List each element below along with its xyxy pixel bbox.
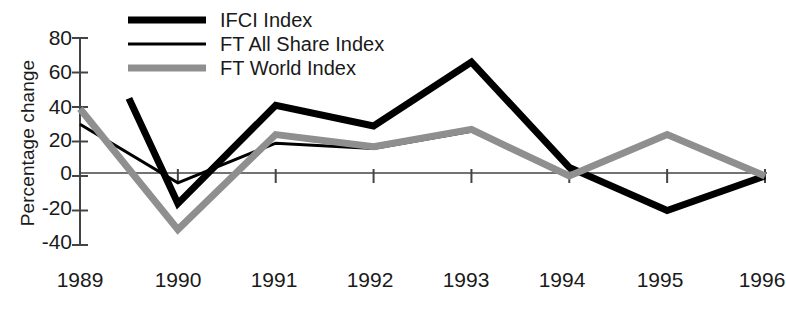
legend-label: IFCI Index [220,10,312,30]
line-chart: Percentage change 80 60 40 20 0 -20 -40 … [0,0,786,312]
legend: IFCI Index FT All Share Index FT World I… [128,8,384,80]
data-series-layer [80,62,765,229]
plot-area [0,0,786,312]
legend-label: FT World Index [220,58,356,78]
legend-label: FT All Share Index [220,34,384,54]
legend-item-ft-all-share: FT All Share Index [128,32,384,56]
legend-item-ifci: IFCI Index [128,8,384,32]
legend-item-ft-world: FT World Index [128,56,384,80]
